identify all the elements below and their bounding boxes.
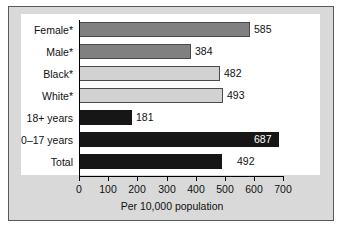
bar-0-17[interactable] <box>79 132 279 147</box>
bar-18-plus[interactable] <box>79 110 132 125</box>
x-tick-0 <box>79 177 80 181</box>
bar-value-black: 482 <box>224 67 242 79</box>
bar-value-0-17: 687 <box>254 133 272 145</box>
bar-value-female: 585 <box>254 23 272 35</box>
x-tick-100 <box>108 177 109 181</box>
bar-total[interactable] <box>79 154 222 169</box>
x-tick-label-700: 700 <box>266 183 300 195</box>
bar-black[interactable] <box>79 66 220 81</box>
x-tick-300 <box>167 177 168 181</box>
x-axis-title: Per 10,000 population <box>9 200 334 212</box>
bar-white[interactable] <box>79 88 223 103</box>
bar-value-total: 492 <box>237 155 255 167</box>
bar-female[interactable] <box>79 22 250 37</box>
bar-male[interactable] <box>79 44 191 59</box>
x-tick-500 <box>225 177 226 181</box>
bar-value-18-plus: 181 <box>136 111 154 123</box>
x-tick-700 <box>283 177 284 181</box>
bar-value-white: 493 <box>227 89 245 101</box>
y-axis-line <box>79 20 80 176</box>
chart-figure: Female* Male* Black* White* 18+ years 0–… <box>8 6 334 221</box>
x-tick-600 <box>254 177 255 181</box>
bar-value-male: 384 <box>195 45 213 57</box>
x-tick-400 <box>196 177 197 181</box>
x-tick-200 <box>137 177 138 181</box>
x-tick-label-200: 200 <box>120 183 154 195</box>
